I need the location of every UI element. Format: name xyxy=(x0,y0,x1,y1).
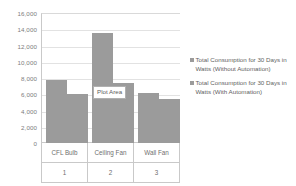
x-axis-category-label: CFL Bulb xyxy=(42,143,87,163)
y-axis: 16,000 14,000 12,000 10,000 8,000 6,000 … xyxy=(0,9,40,144)
y-axis-tick: 6,000 xyxy=(21,91,37,98)
x-axis-category-label: Wall Fan xyxy=(134,143,179,163)
bars-layer xyxy=(42,14,180,143)
bar-wall-fan-without-automation[interactable] xyxy=(138,93,159,143)
bar-cfl-bulb-with-automation[interactable] xyxy=(67,94,88,143)
y-axis-tick: 0 xyxy=(33,140,37,147)
y-axis-tick: 16,000 xyxy=(17,10,37,17)
bar-group-ceiling-fan xyxy=(92,14,134,143)
x-axis-index-label: 3 xyxy=(134,163,179,182)
y-axis-tick: 12,000 xyxy=(17,42,37,49)
plot-area-tooltip: Plot Area xyxy=(93,86,126,99)
x-axis-column-ceiling-fan: Ceiling Fan 2 xyxy=(88,143,134,182)
y-axis-tick: 4,000 xyxy=(21,107,37,114)
legend-label: Total Consumption for 30 Days in Watts (… xyxy=(196,56,292,73)
legend-entry-with-automation[interactable]: Total Consumption for 30 Days in Watts (… xyxy=(190,79,294,96)
x-axis: CFL Bulb 1 Ceiling Fan 2 Wall Fan 3 xyxy=(41,143,180,183)
bar-group-cfl-bulb xyxy=(46,14,88,143)
y-axis-tick: 8,000 xyxy=(21,75,37,82)
legend-entry-without-automation[interactable]: Total Consumption for 30 Days in Watts (… xyxy=(190,56,294,73)
bar-group-wall-fan xyxy=(138,14,180,143)
legend-label: Total Consumption for 30 Days in Watts (… xyxy=(196,79,292,96)
y-axis-tick: 2,000 xyxy=(21,123,37,130)
y-axis-tick: 14,000 xyxy=(17,26,37,33)
x-axis-column-wall-fan: Wall Fan 3 xyxy=(134,143,179,182)
plot-area[interactable] xyxy=(41,13,180,143)
y-axis-tick: 10,000 xyxy=(17,58,37,65)
x-axis-index-label: 1 xyxy=(42,163,87,182)
bar-chart: 16,000 14,000 12,000 10,000 8,000 6,000 … xyxy=(0,0,296,186)
bar-wall-fan-with-automation[interactable] xyxy=(159,99,180,143)
x-axis-category-label: Ceiling Fan xyxy=(88,143,133,163)
x-axis-column-cfl-bulb: CFL Bulb 1 xyxy=(42,143,88,182)
legend-swatch-icon xyxy=(190,58,194,62)
x-axis-index-label: 2 xyxy=(88,163,133,182)
legend: Total Consumption for 30 Days in Watts (… xyxy=(190,56,294,102)
bar-cfl-bulb-without-automation[interactable] xyxy=(46,80,67,143)
legend-swatch-icon xyxy=(190,81,194,85)
